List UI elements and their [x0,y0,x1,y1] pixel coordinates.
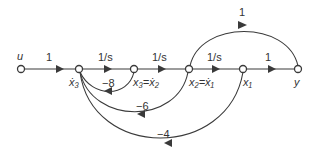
gain-label: 1/s [98,51,113,63]
node-label-x1: x₁ [242,76,253,88]
node-y [295,66,302,73]
gain-label: 1 [239,6,245,18]
gain-label: 1 [46,51,52,63]
gain-label: 1 [265,51,271,63]
gain-label: 1/s [152,51,167,63]
node-x2 [186,66,193,73]
arrow-icon [104,65,112,73]
arrow-icon [268,65,276,73]
arrow-icon [56,65,64,73]
node-label-x3: x₃=ẋ₂ [132,76,160,88]
node-x3dot [76,66,83,73]
arrow-icon [158,65,166,73]
gain-label: −4 [157,128,170,140]
signal-flow-graph: u ẋ₃ x₃=ẋ₂ x₂=ẋ₁ x₁ y 1 1/s 1/s 1/s 1 1 … [0,0,319,165]
arrow-icon [238,21,247,29]
node-label-x2: x₂=ẋ₁ [188,76,215,88]
gain-label: −6 [136,100,149,112]
node-x3 [131,66,138,73]
gain-label: −8 [102,77,115,89]
node-label-x3dot: ẋ₃ [68,76,80,88]
node-label-u: u [17,50,23,62]
arrow-icon [212,65,220,73]
node-x1 [240,66,247,73]
gain-label: 1/s [207,51,222,63]
node-u [18,66,25,73]
node-label-y: y [293,76,301,88]
arrow-icon [164,139,172,147]
